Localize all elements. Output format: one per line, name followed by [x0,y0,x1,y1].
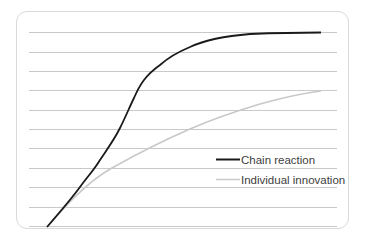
legend-label-individual-innovation: Individual innovation [241,174,345,186]
line-chart: Chain reaction Individual innovation [0,0,365,239]
legend-item-chain-reaction: Chain reaction [216,154,315,166]
legend-label-chain-reaction: Chain reaction [241,154,315,166]
legend: Chain reaction Individual innovation [216,154,345,186]
legend-item-individual-innovation: Individual innovation [216,174,345,186]
